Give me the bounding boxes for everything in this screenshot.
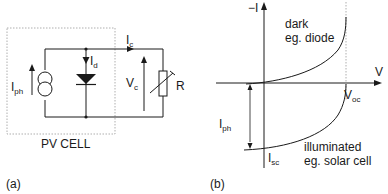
id-arrow-icon (83, 57, 90, 64)
iph-b-label: Iph (219, 117, 231, 133)
pv-cell-boundary (7, 28, 115, 134)
y-axis-label: −I (248, 1, 258, 15)
vc-arrow-icon (141, 56, 147, 111)
iph-double-arrow-icon (248, 84, 253, 149)
ic-label: Ic (126, 33, 133, 49)
diode-icon (76, 74, 96, 85)
x-axis-label: V (375, 65, 383, 79)
figure: Iph Id Ic Vc R PV CELL (a) (0, 0, 388, 194)
pv-cell-label: PV CELL (41, 137, 91, 151)
dark-label-line1: dark (285, 17, 309, 31)
iph-label: Iph (11, 80, 23, 96)
caption-b: (b) (210, 177, 225, 191)
panel-a-circuit: Iph Id Ic Vc R PV CELL (a) (6, 28, 185, 191)
voc-label: Voc (344, 88, 360, 104)
iph-arrow-icon (29, 64, 35, 95)
caption-a: (a) (6, 177, 21, 191)
vc-label: Vc (126, 76, 138, 92)
illuminated-label-line1: illuminated (304, 140, 361, 154)
r-label: R (176, 79, 185, 93)
variable-resistor-icon (150, 71, 175, 96)
dark-label-line2: eg. diode (285, 31, 335, 45)
junction-dot-top (84, 47, 87, 50)
panel-b-iv-curve: −I V Iph Isc Voc dark eg. diode illumina… (210, 1, 383, 191)
y-axis (261, 2, 267, 168)
junction-dot-bottom (84, 115, 87, 118)
isc-label: Isc (268, 151, 279, 167)
x-axis (216, 80, 382, 86)
illuminated-label-line2: eg. solar cell (304, 154, 371, 168)
current-source-icon (38, 72, 52, 96)
id-label: Id (90, 54, 98, 70)
